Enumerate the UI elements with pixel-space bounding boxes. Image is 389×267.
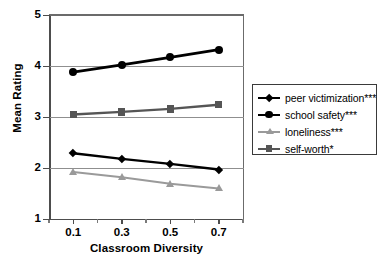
y-tick-mark (43, 66, 50, 68)
x-minor-tick (145, 219, 147, 223)
data-point-marker (118, 173, 126, 180)
y-tick-label: 1 (0, 213, 41, 223)
x-tick-label: 0.5 (150, 226, 190, 238)
data-point-marker (215, 101, 222, 108)
y-tick-text: 4 (7, 60, 41, 70)
y-tick-label: 3 (0, 111, 41, 121)
legend-label: school safety*** (285, 109, 357, 121)
y-tick-mark (43, 117, 50, 119)
legend-marker-icon (258, 143, 280, 155)
y-tick-mark (43, 168, 50, 170)
x-minor-tick (242, 219, 244, 223)
data-point-marker (215, 184, 223, 191)
x-tick-mark (218, 219, 220, 224)
y-tick-label: 2 (0, 162, 41, 172)
x-tick-mark (170, 219, 172, 224)
legend-marker-icon (258, 109, 280, 121)
series-line (73, 153, 219, 169)
series-line (73, 105, 219, 115)
y-tick-label: 4 (0, 60, 41, 70)
y-tick-text: 1 (7, 213, 41, 223)
legend-label: peer victimization*** (285, 92, 376, 104)
legend-item[interactable]: school safety*** (258, 106, 376, 123)
x-minor-tick (194, 219, 196, 223)
legend: peer victimization***school safety***lon… (252, 84, 377, 155)
y-tick-text: 2 (7, 162, 41, 172)
data-point-marker (69, 168, 77, 175)
legend-label: loneliness*** (285, 126, 343, 138)
legend-marker-icon (258, 92, 280, 104)
plot-area (49, 15, 243, 219)
x-tick-mark (121, 219, 123, 224)
data-point-marker (215, 46, 223, 54)
y-tick-mark (43, 15, 50, 17)
series-line (73, 50, 219, 72)
legend-label: self-worth* (285, 143, 334, 155)
legend-point-marker (265, 111, 273, 119)
legend-point-marker (266, 145, 273, 152)
data-point-marker (70, 111, 77, 118)
data-point-marker (166, 180, 174, 187)
legend-marker-icon (258, 126, 280, 138)
y-tick-text: 3 (7, 111, 41, 121)
legend-point-marker (266, 128, 274, 134)
legend-point-marker (264, 93, 273, 102)
y-axis-title: Mean Rating (11, 38, 23, 158)
chart-figure: Mean Rating 12345 0.10.30.50.7 Classroom… (0, 0, 389, 267)
data-point-marker (118, 61, 126, 69)
data-point-marker (167, 105, 174, 112)
y-tick-label: 5 (0, 9, 41, 19)
series-line (73, 172, 219, 188)
x-tick-label: 0.7 (199, 226, 239, 238)
x-tick-mark (73, 219, 75, 224)
y-tick-text: 5 (7, 9, 41, 19)
x-tick-label: 0.1 (53, 226, 93, 238)
legend-item[interactable]: loneliness*** (258, 123, 376, 140)
y-tick-mark (43, 219, 50, 221)
data-point-marker (118, 108, 125, 115)
x-tick-label: 0.3 (102, 226, 142, 238)
legend-item[interactable]: peer victimization*** (258, 89, 376, 106)
x-axis-title: Classroom Diversity (49, 242, 244, 254)
x-minor-tick (97, 219, 99, 223)
legend-item[interactable]: self-worth* (258, 140, 376, 157)
